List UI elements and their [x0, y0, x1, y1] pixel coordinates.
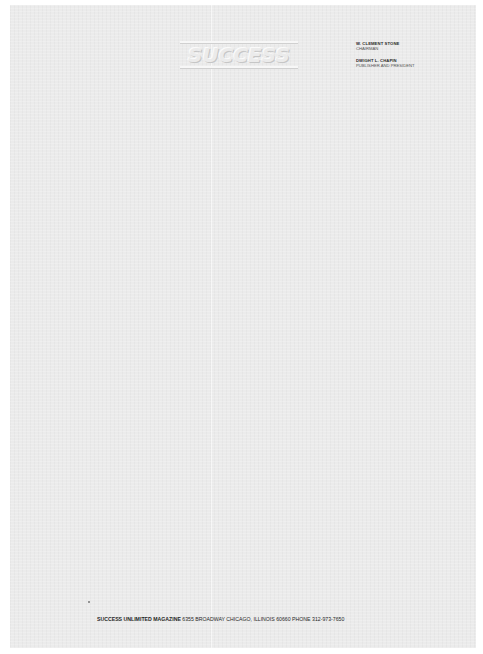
letterhead-paper: SUCCESS W. CLEMENT STONE CHAIRMAN DWIGHT… — [10, 5, 476, 648]
paper-speck — [88, 601, 90, 603]
embossed-logo: SUCCESS — [176, 37, 302, 71]
footer-phone-label: PHONE — [292, 616, 310, 622]
footer-address-line: SUCCESS UNLIMITED MAGAZINE 6355 BROADWAY… — [97, 616, 417, 622]
logo-wordmark: SUCCESS — [176, 44, 302, 66]
officer-title: CHAIRMAN — [356, 46, 476, 51]
officer-title: PUBLISHER AND PRESIDENT — [356, 63, 476, 68]
logo-bottom-rule — [180, 66, 298, 68]
paper-fold-line — [211, 5, 212, 648]
footer-address: 6355 BROADWAY CHICAGO, ILLINOIS 60660 — [182, 616, 290, 622]
officer-chairman: W. CLEMENT STONE CHAIRMAN — [356, 41, 476, 51]
footer-phone: 312-973-7650 — [312, 616, 344, 622]
footer-organization: SUCCESS UNLIMITED MAGAZINE — [97, 616, 181, 622]
officer-publisher: DWIGHT L. CHAPIN PUBLISHER AND PRESIDENT — [356, 58, 476, 68]
officers-block: W. CLEMENT STONE CHAIRMAN DWIGHT L. CHAP… — [356, 41, 476, 75]
